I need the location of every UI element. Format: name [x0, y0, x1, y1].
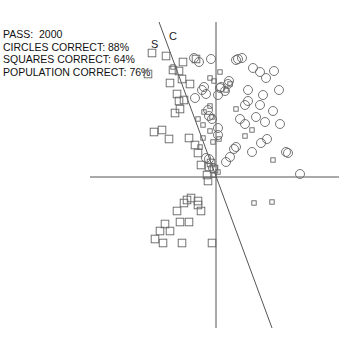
circle-point [252, 113, 261, 122]
circle-point [191, 94, 200, 103]
boundary-label-s: S [151, 38, 158, 50]
square-point [165, 135, 173, 143]
circle-point [276, 120, 285, 129]
square-point [197, 207, 205, 215]
small-square-point [196, 117, 200, 121]
square-point [166, 227, 174, 235]
square-point [166, 79, 174, 87]
square-point [173, 90, 181, 98]
circle-point [270, 67, 279, 76]
square-point [161, 220, 169, 228]
square-point [176, 218, 184, 226]
small-square-point [270, 200, 274, 204]
circle-point [269, 107, 278, 116]
circle-point [256, 68, 265, 77]
circle-point [207, 55, 216, 64]
square-point [159, 239, 167, 247]
circle-point [241, 120, 250, 129]
axes [90, 22, 339, 328]
small-square-point [271, 158, 275, 162]
circle-point [259, 91, 268, 100]
square-point [144, 70, 152, 78]
square-point [162, 52, 170, 60]
square-point [158, 126, 166, 134]
circle-point [236, 115, 245, 124]
circle-point [262, 74, 271, 83]
square-point [180, 199, 188, 207]
boundary-label-c: C [169, 30, 177, 42]
circle-point [241, 101, 250, 110]
square-point [150, 128, 158, 136]
scatter-plot: S C [0, 0, 352, 345]
data-points [144, 49, 304, 247]
square-point [151, 235, 159, 243]
small-square-point [250, 128, 254, 132]
square-point [194, 149, 202, 157]
square-point [178, 239, 186, 247]
circle-point [214, 124, 223, 133]
circle-point [261, 118, 270, 127]
small-square-point [252, 201, 256, 205]
circle-point [244, 97, 253, 106]
square-point [186, 80, 194, 88]
small-square-point [211, 140, 215, 144]
circle-point [275, 86, 284, 95]
square-point [185, 134, 193, 142]
small-square-point [234, 107, 238, 111]
circle-point [244, 86, 253, 95]
small-square-point [218, 70, 222, 74]
circle-point [256, 101, 265, 110]
circle-point [248, 148, 257, 157]
square-point [185, 218, 193, 226]
small-square-point [208, 129, 212, 133]
square-point [148, 49, 156, 57]
square-point [208, 239, 216, 247]
circle-point [232, 143, 241, 152]
square-point [179, 58, 187, 66]
small-square-point [201, 123, 205, 127]
small-square-point [243, 134, 247, 138]
square-point [156, 227, 164, 235]
circle-point [249, 64, 258, 73]
square-point [173, 207, 181, 215]
